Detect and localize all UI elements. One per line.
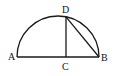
label-a: A bbox=[8, 51, 16, 62]
semicircle-arc bbox=[17, 16, 99, 57]
label-c: C bbox=[62, 61, 69, 72]
label-d: D bbox=[62, 4, 69, 15]
geometry-diagram: A C B D bbox=[0, 0, 116, 76]
label-b: B bbox=[101, 52, 108, 63]
